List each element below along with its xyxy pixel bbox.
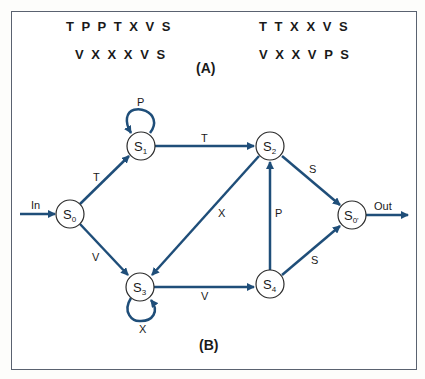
label-s2-s0prime: S <box>309 163 316 175</box>
edge-s0-s1 <box>80 156 129 204</box>
label-s3-s4: V <box>201 290 209 302</box>
label-s4-s2: P <box>275 207 282 219</box>
label-s3-loop: X <box>139 323 147 335</box>
edge-s4-s0prime <box>282 226 340 275</box>
label-s4-s0prime: S <box>311 254 318 266</box>
edge-s1-loop <box>127 109 154 133</box>
label-s2-s3: X <box>218 207 226 219</box>
edge-s0-s3 <box>80 224 128 275</box>
label-s1-s2: T <box>201 132 208 144</box>
label-s0-s1: T <box>93 171 100 183</box>
label-s1-loop: P <box>137 96 144 108</box>
edge-s2-s3 <box>152 156 259 275</box>
label-s0-s3: V <box>92 251 100 263</box>
state-diagram: S0 S1 S2 S3 S4 S0' In T V P T X X V P S … <box>0 0 425 379</box>
label-in: In <box>31 199 40 211</box>
label-out: Out <box>374 200 392 212</box>
